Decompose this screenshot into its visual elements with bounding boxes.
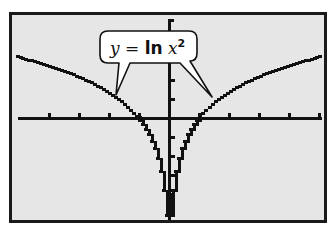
y-tick: [170, 155, 175, 158]
x-tick: [228, 113, 231, 118]
x-tick: [48, 113, 51, 118]
x-tick: [258, 113, 261, 118]
y-tick: [170, 136, 175, 139]
y-tick: [170, 98, 175, 101]
graph-plot: y = ln x2: [12, 15, 324, 220]
y-tick: [170, 79, 175, 82]
x-tick: [288, 113, 291, 118]
callout-equation: y = ln x2: [109, 37, 185, 58]
x-tick: [108, 113, 111, 118]
equation-callout: y = ln x2: [100, 31, 212, 97]
y-tick: [170, 174, 175, 177]
calculator-graph-screen: y = ln x2: [9, 12, 327, 223]
x-tick: [78, 113, 81, 118]
x-tick: [318, 113, 321, 118]
